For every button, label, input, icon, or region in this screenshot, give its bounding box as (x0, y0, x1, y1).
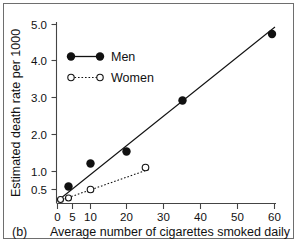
x-axis-title: Average number of cigarettes smoked dail… (50, 225, 291, 239)
y-tick-label-2.0: 2.0 (31, 129, 47, 141)
y-tick-label-3.0: 3.0 (31, 92, 47, 104)
y-tick-label-5.0: 5.0 (31, 19, 47, 31)
legend-entry-men: Men (67, 50, 136, 64)
y-tick-label-4.0: 4.0 (31, 55, 47, 67)
data-point-men-2 (122, 147, 130, 155)
data-point-men-1 (86, 159, 94, 167)
data-point-men-3 (178, 96, 186, 104)
legend-label-women: Women (111, 71, 154, 85)
legend-marker-women-right (97, 74, 103, 80)
y-axis-title: Estimated death rate per 1000 (9, 29, 23, 197)
figure-panel-b: 5.0 4.0 3.0 2.0 1.0 0.5 0 5 10 20 30 40 … (0, 0, 298, 251)
x-tickmarks (58, 204, 275, 210)
x-tick-label-50: 50 (231, 211, 244, 223)
legend-marker-women-left (68, 74, 74, 80)
x-tick-label-10: 10 (84, 211, 97, 223)
x-tick-label-20: 20 (120, 211, 133, 223)
data-point-women-2 (87, 186, 94, 193)
data-point-women-1 (66, 195, 72, 201)
x-tick-label-30: 30 (157, 211, 170, 223)
legend-entry-women: Women (68, 71, 154, 85)
legend-label-men: Men (111, 50, 135, 64)
chart-legend: Men Women (67, 50, 154, 85)
x-tick-label-5: 5 (69, 211, 75, 223)
y-tick-label-1.0: 1.0 (31, 166, 47, 178)
men-fit-line (58, 27, 275, 201)
legend-marker-men-right (96, 52, 104, 60)
y-tickmarks (52, 25, 57, 190)
data-point-men-4 (268, 30, 276, 38)
x-tick-label-40: 40 (194, 211, 207, 223)
panel-label: (b) (12, 225, 27, 239)
data-point-men-0 (64, 182, 72, 190)
x-tick-label-60: 60 (268, 211, 281, 223)
y-tick-label-0.5: 0.5 (31, 184, 47, 196)
legend-marker-men-left (67, 52, 75, 60)
x-tick-label-0: 0 (54, 211, 60, 223)
scatter-chart: 5.0 4.0 3.0 2.0 1.0 0.5 0 5 10 20 30 40 … (0, 0, 298, 251)
data-point-women-3 (142, 164, 149, 171)
data-point-women-0 (58, 197, 64, 203)
